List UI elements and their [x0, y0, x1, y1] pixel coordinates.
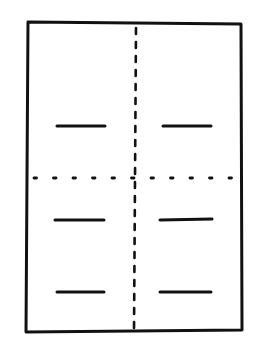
- fold-diagram: [0, 0, 255, 350]
- cut-mark-middle-right: [160, 219, 212, 220]
- vertical-fold-line: [134, 28, 136, 332]
